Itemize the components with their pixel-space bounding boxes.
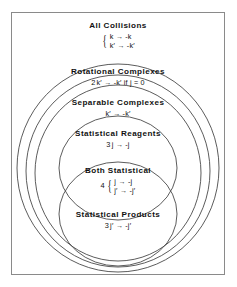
set-label-both-statistical: Both Statistical 4 { j → -j j′ → -j′ (11, 167, 225, 195)
statistical-products-title: Statistical Products (11, 211, 225, 219)
set-label-statistical-reagents: Statistical Reagents 3 j → -j (11, 130, 225, 149)
statistical-products-relation: j′ → -j′ (110, 221, 131, 230)
rotational-complexes-title: Rotational Complexes (11, 68, 225, 76)
statistical-reagents-title: Statistical Reagents (11, 130, 225, 138)
separable-complexes-relations: k′ → -k′ (11, 109, 225, 118)
separable-complexes-relation: k′ → -k′ (105, 109, 130, 118)
brace-glyph: { (103, 35, 107, 46)
rotational-complexes-relation: k′ → -k′ if j = 0 (97, 78, 145, 87)
both-statistical-relations: 4 { j → -j j′ → -j′ (11, 177, 225, 195)
set-label-all-collisions: All Collisions { k → -k k′ → -k′ (11, 22, 225, 50)
both-statistical-relation-2: j′ → -j′ (114, 186, 135, 195)
statistical-products-relations: 3 j′ → -j′ (11, 221, 225, 230)
brace-glyph: { (107, 180, 111, 191)
statistical-reagents-number: 3 (106, 141, 110, 149)
statistical-reagents-relation: j → -j (112, 140, 130, 149)
set-label-statistical-products: Statistical Products 3 j′ → -j′ (11, 211, 225, 230)
separable-complexes-title: Separable Complexes (11, 99, 225, 107)
both-statistical-title: Both Statistical (11, 167, 225, 175)
all-collisions-relation-1: k → -k (110, 32, 135, 41)
statistical-products-number: 3 (105, 222, 109, 230)
all-collisions-relations: { k → -k k′ → -k′ (11, 32, 225, 50)
set-label-separable-complexes: Separable Complexes k′ → -k′ (11, 99, 225, 118)
set-label-rotational-complexes: Rotational Complexes 2 k′ → -k′ if j = 0 (11, 68, 225, 87)
all-collisions-title: All Collisions (11, 22, 225, 30)
all-collisions-relation-stack: k → -k k′ → -k′ (110, 32, 135, 50)
both-statistical-relation-1: j → -j (114, 177, 135, 186)
all-collisions-relation-2: k′ → -k′ (110, 41, 135, 50)
both-statistical-relation-stack: j → -j j′ → -j′ (114, 177, 135, 195)
statistical-reagents-relations: 3 j → -j (11, 140, 225, 149)
figure-canvas: All Collisions { k → -k k′ → -k′ Rotatio… (0, 0, 237, 287)
rotational-complexes-relations: 2 k′ → -k′ if j = 0 (11, 78, 225, 87)
both-statistical-number: 4 (101, 182, 105, 190)
rotational-complexes-number: 2 (91, 79, 95, 87)
